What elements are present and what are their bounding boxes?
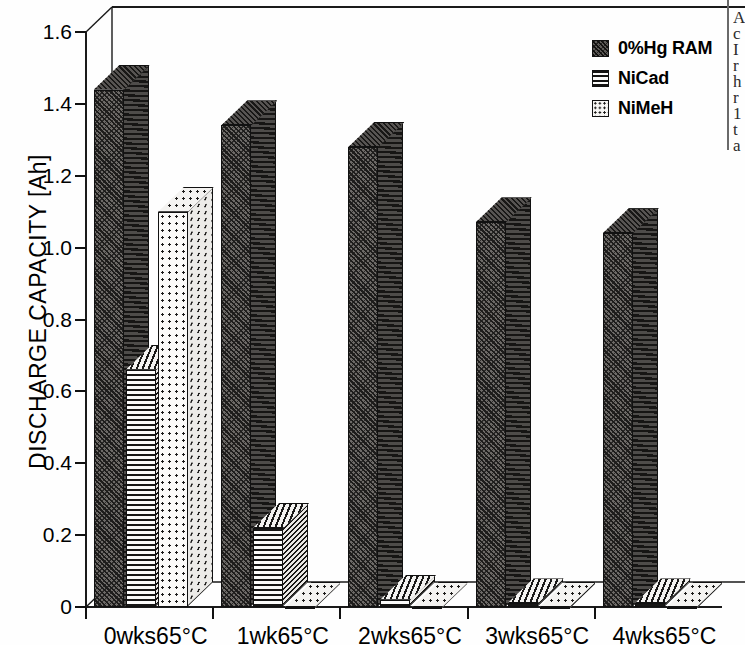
bar-front-face	[348, 147, 378, 607]
y-tick-label: 0	[60, 595, 72, 619]
bar-front-face	[285, 607, 315, 609]
bar-top-face	[540, 582, 596, 607]
bar-top-face	[285, 582, 341, 607]
y-tick-label: 1.2	[43, 164, 72, 188]
y-tick-mark	[75, 462, 86, 464]
x-tick-mark	[212, 607, 214, 619]
y-tick-mark	[75, 247, 86, 249]
bar-front-face	[603, 233, 633, 607]
x-tick-label: 1wk65°C	[237, 623, 329, 645]
bar-front-face	[476, 222, 506, 607]
bar-nimeh-group-0	[158, 187, 214, 607]
y-tick-label: 1.6	[43, 20, 72, 44]
y-tick-label: 1.4	[43, 92, 72, 116]
bar-front-face	[126, 370, 156, 607]
bar-front-face	[540, 607, 570, 609]
bar-side-face	[632, 208, 658, 607]
legend-label: NiCad	[618, 68, 669, 89]
y-tick-label: 0.2	[43, 523, 72, 547]
y-tick-mark	[75, 319, 86, 321]
x-tick-mark	[339, 607, 341, 619]
bar-ram-group-2	[348, 122, 404, 607]
bar-front-face	[635, 603, 665, 607]
bar-front-face	[221, 125, 251, 607]
legend-item-2: NiMeH	[592, 98, 673, 119]
legend-item-1: NiCad	[592, 68, 669, 89]
bar-front-face	[667, 607, 697, 609]
x-tick-mark	[85, 607, 87, 619]
bar-front-face	[380, 600, 410, 607]
bar-nimeh-group-3	[540, 582, 596, 607]
x-tick-label: 3wks65°C	[485, 623, 589, 645]
page-gutter-rule	[727, 0, 729, 150]
bar-front-face	[508, 603, 538, 607]
chart-legend: 0%Hg RAMNiCadNiMeH	[592, 38, 722, 122]
y-tick-mark	[75, 103, 86, 105]
bar-side-face	[187, 187, 213, 607]
y-tick-mark	[75, 390, 86, 392]
y-tick-label: 0.8	[43, 308, 72, 332]
legend-label: 0%Hg RAM	[618, 38, 712, 59]
bar-front-face	[412, 607, 442, 609]
y-tick-label: 1.0	[43, 236, 72, 260]
y-tick-mark	[75, 31, 86, 33]
bar-ram-group-3	[476, 197, 532, 607]
clipped-column-text: AcIrhr1ta	[733, 8, 745, 158]
bar-nimeh-group-2	[412, 582, 468, 607]
legend-swatch-nicad	[592, 70, 609, 87]
y-tick-mark	[75, 175, 86, 177]
legend-swatch-nimeh	[592, 100, 609, 117]
x-tick-mark	[594, 607, 596, 619]
bar-nimeh-group-4	[667, 582, 723, 607]
y-tick-label: 0.4	[43, 451, 72, 475]
bar-top-face	[667, 582, 723, 607]
clipped-text-line: a	[733, 136, 741, 156]
bar-ram-group-4	[603, 208, 659, 607]
bar-front-face	[94, 90, 124, 608]
bar-front-face	[253, 528, 283, 607]
x-tick-label: 0wks65°C	[104, 623, 208, 645]
chart-figure: DISCHARGE CAPACITY [Ah] 00.20.40.60.81.0…	[0, 0, 745, 645]
bar-top-face	[412, 582, 468, 607]
bar-nimeh-group-1	[285, 582, 341, 607]
x-tick-label: 4wks65°C	[612, 623, 716, 645]
legend-swatch-ram	[592, 40, 609, 57]
bar-front-face	[158, 212, 188, 607]
bar-side-face	[505, 197, 531, 607]
y-tick-label: 0.6	[43, 379, 72, 403]
y-tick-mark	[75, 534, 86, 536]
bar-side-face	[377, 122, 403, 607]
x-tick-mark	[467, 607, 469, 619]
x-tick-label: 2wks65°C	[358, 623, 462, 645]
legend-label: NiMeH	[618, 98, 673, 119]
legend-item-0: 0%Hg RAM	[592, 38, 712, 59]
